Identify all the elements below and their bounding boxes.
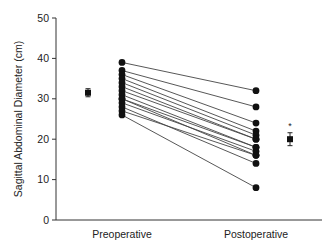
x-category-postoperative: Postoperative [224,228,288,240]
postoperative-point [253,160,260,167]
paired-lines [122,62,256,187]
y-tick-label: 10 [37,173,49,185]
postoperative-point [253,152,260,159]
x-category-preoperative: Preoperative [92,228,152,240]
postoperative-point [253,136,260,143]
y-tick-label: 0 [43,214,49,226]
significance-asterisk: * [288,121,292,131]
pair-line [122,111,256,155]
y-tick-label: 20 [37,133,49,145]
axes: 01020304050 [37,12,322,226]
y-tick-label: 40 [37,52,49,64]
preoperative-point [119,59,126,66]
pair-line [122,95,256,148]
pair-line [122,87,256,140]
y-tick-label: 30 [37,92,49,104]
mean-square-marker [287,136,293,142]
mean-square-marker [85,90,91,96]
mean-markers: * [85,89,293,146]
postoperative-point [253,184,260,191]
postoperative-point [253,87,260,94]
y-tick-label: 50 [37,12,49,24]
postoperative-point [253,120,260,127]
postoperative-point [253,103,260,110]
y-axis-label: Sagittal Abdominal Diameter (cm) [12,41,24,197]
paired-scatter-chart: 01020304050 * Sagittal Abdominal Diamete… [0,0,335,251]
pair-line [122,71,256,107]
preoperative-point [119,112,126,119]
pair-line [122,115,256,188]
